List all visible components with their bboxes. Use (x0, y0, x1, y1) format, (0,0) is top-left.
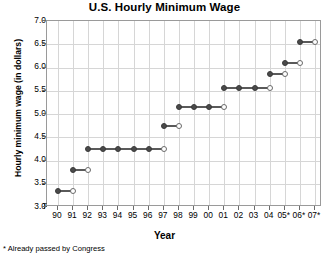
x-tick-mark (208, 206, 209, 210)
data-point-closed (85, 146, 91, 152)
x-tick-mark (117, 206, 118, 210)
data-point-closed (131, 146, 137, 152)
x-tick-mark (72, 206, 73, 210)
gridline-vertical (88, 21, 89, 205)
chart-footnote: * Already passed by Congress (3, 244, 105, 253)
x-tick-mark (133, 206, 134, 210)
x-tick-mark (223, 206, 224, 210)
gridline-vertical (224, 21, 225, 205)
data-point-closed (100, 146, 106, 152)
data-point-open (221, 104, 227, 110)
gridline-vertical (118, 21, 119, 205)
y-tick-label: 4.0 (6, 155, 46, 163)
data-point-open (161, 146, 167, 152)
gridline-vertical (103, 21, 104, 205)
gridline-vertical (285, 21, 286, 205)
gridline-vertical (194, 21, 195, 205)
gridline-vertical (134, 21, 135, 205)
x-tick-mark (269, 206, 270, 210)
data-point-closed (252, 85, 258, 91)
x-tick-mark (163, 206, 164, 210)
data-point-open (85, 167, 91, 173)
data-point-closed (267, 71, 273, 77)
gridline-vertical (300, 21, 301, 205)
y-tick-label: 6.0 (6, 62, 46, 70)
gridline-vertical (315, 21, 316, 205)
gridline-vertical (270, 21, 271, 205)
x-axis-title: Year (0, 230, 329, 241)
x-tick-label: 07* (298, 211, 329, 219)
step-segment-line (179, 106, 224, 108)
y-tick-mark (42, 183, 46, 184)
gridline-vertical (179, 21, 180, 205)
data-point-closed (191, 104, 197, 110)
y-tick-label: 6.5 (6, 39, 46, 47)
chart-container: U.S. Hourly Minimum Wage Hourly minimum … (0, 0, 329, 255)
x-tick-mark (178, 206, 179, 210)
x-tick-mark (87, 206, 88, 210)
plot-area (46, 20, 321, 206)
x-tick-mark (299, 206, 300, 210)
x-tick-mark (314, 206, 315, 210)
y-tick-mark (42, 136, 46, 137)
data-point-closed (115, 146, 121, 152)
x-tick-mark (284, 206, 285, 210)
data-point-closed (55, 188, 61, 194)
y-tick-mark (42, 43, 46, 44)
x-tick-mark (148, 206, 149, 210)
chart-title: U.S. Hourly Minimum Wage (0, 1, 329, 13)
x-tick-mark (193, 206, 194, 210)
x-tick-mark (238, 206, 239, 210)
data-point-closed (282, 60, 288, 66)
y-tick-label: 4.5 (6, 132, 46, 140)
data-point-closed (176, 104, 182, 110)
y-tick-label: 5.5 (6, 85, 46, 93)
y-tick-label: 7.0 (6, 16, 46, 24)
data-point-closed (206, 104, 212, 110)
y-tick-mark (42, 206, 46, 207)
data-point-open (282, 71, 288, 77)
y-tick-mark (42, 67, 46, 68)
gridline-vertical (209, 21, 210, 205)
x-tick-mark (254, 206, 255, 210)
data-point-closed (161, 123, 167, 129)
gridline-vertical (239, 21, 240, 205)
data-point-open (176, 123, 182, 129)
step-segment-line (224, 87, 269, 89)
y-tick-label: 3.0 (6, 202, 46, 210)
x-tick-mark (57, 206, 58, 210)
y-tick-mark (42, 160, 46, 161)
y-tick-label: 5.0 (6, 109, 46, 117)
x-tick-mark (102, 206, 103, 210)
y-tick-mark (42, 113, 46, 114)
gridline-vertical (149, 21, 150, 205)
y-tick-mark (42, 90, 46, 91)
data-point-open (297, 60, 303, 66)
gridline-vertical (73, 21, 74, 205)
data-point-closed (297, 39, 303, 45)
gridline-vertical (164, 21, 165, 205)
gridline-vertical (255, 21, 256, 205)
data-point-closed (146, 146, 152, 152)
data-point-closed (70, 167, 76, 173)
gridline-vertical (58, 21, 59, 205)
y-tick-label: 3.5 (6, 178, 46, 186)
data-point-open (312, 39, 318, 45)
data-point-open (70, 188, 76, 194)
y-tick-mark (42, 20, 46, 21)
